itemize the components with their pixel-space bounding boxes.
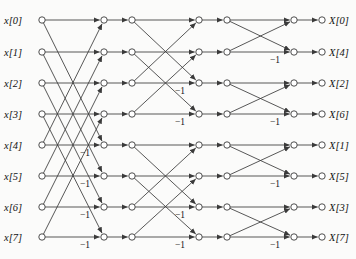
input-node-3 <box>39 111 45 117</box>
multiply-node-3-row5 <box>319 173 325 179</box>
input-label-3: x[3] <box>3 109 22 120</box>
stage3-cross-up-3 <box>227 209 290 237</box>
minus-one-stage3-row7: −1 <box>270 240 280 250</box>
input-node-5 <box>39 173 45 179</box>
fft-butterfly-diagram: x[0]x[1]x[2]x[3]x[4]x[5]x[6]x[7]−1−1−1−1… <box>0 0 356 259</box>
stage1-cross-down-3 <box>42 114 102 233</box>
stage3-node-row6 <box>291 204 297 210</box>
stage1-cross-down-1 <box>42 52 102 172</box>
stage1-cross-down-2 <box>42 83 102 203</box>
minus-one-stage1-row5: −1 <box>80 179 90 189</box>
output-label-0: X[0] <box>328 15 349 26</box>
stage3-node-row0 <box>291 17 297 23</box>
stage3-cross-up-0 <box>227 22 290 52</box>
minus-one-stage2-row7: −1 <box>175 240 185 250</box>
multiply-node-2-row4 <box>224 142 230 148</box>
minus-one-stage3-row3: −1 <box>270 117 280 127</box>
stage1-cross-down-0 <box>42 20 102 141</box>
stage1-node-row2 <box>101 80 107 86</box>
minus-one-stage2-row6: −1 <box>175 210 185 220</box>
stage2-node-row3 <box>196 111 202 117</box>
stage3-cross-down-0 <box>227 20 290 50</box>
stage2-cross-down-3 <box>132 176 196 234</box>
stage1-node-row4 <box>101 142 107 148</box>
stage2-node-row0 <box>196 17 202 23</box>
stage2-cross-up-3 <box>132 179 196 237</box>
multiply-node-1-row6 <box>129 204 135 210</box>
output-label-7: X[7] <box>328 232 349 243</box>
multiply-node-3-row4 <box>319 142 325 148</box>
multiply-node-2-row6 <box>224 204 230 210</box>
stage1-node-row7 <box>101 234 107 240</box>
output-label-2: X[2] <box>328 78 349 89</box>
multiply-node-2-row3 <box>224 111 230 117</box>
input-node-6 <box>39 204 45 210</box>
stage1-cross-up-3 <box>42 118 102 237</box>
multiply-node-1-row1 <box>129 49 135 55</box>
stage3-node-row7 <box>291 234 297 240</box>
stage2-node-row6 <box>196 204 202 210</box>
stage3-cross-down-2 <box>227 145 290 174</box>
multiply-node-1-row2 <box>129 80 135 86</box>
input-label-2: x[2] <box>3 78 22 89</box>
multiply-node-1-row5 <box>129 173 135 179</box>
input-label-7: x[7] <box>3 232 22 243</box>
input-node-7 <box>39 234 45 240</box>
stage3-cross-down-1 <box>227 83 290 112</box>
output-label-1: X[4] <box>328 47 349 58</box>
multiply-node-3-row0 <box>319 17 325 23</box>
stage2-cross-down-2 <box>132 145 196 204</box>
stage2-node-row1 <box>196 49 202 55</box>
input-node-0 <box>39 17 45 23</box>
multiply-node-3-row3 <box>319 111 325 117</box>
minus-one-stage1-row7: −1 <box>80 240 90 250</box>
multiply-node-3-row6 <box>319 204 325 210</box>
input-node-4 <box>39 142 45 148</box>
stage1-node-row0 <box>101 17 107 23</box>
input-label-1: x[1] <box>3 47 22 58</box>
input-label-4: x[4] <box>3 140 22 151</box>
input-label-0: x[0] <box>3 15 22 26</box>
multiply-node-2-row2 <box>224 80 230 86</box>
minus-one-stage2-row2: −1 <box>175 86 185 96</box>
stage3-node-row2 <box>291 80 297 86</box>
stage3-node-row1 <box>291 49 297 55</box>
stage1-cross-up-0 <box>42 24 102 145</box>
stage1-node-row3 <box>101 111 107 117</box>
stage2-cross-up-1 <box>132 55 196 114</box>
stage1-node-row1 <box>101 49 107 55</box>
stage1-node-row6 <box>101 204 107 210</box>
stage2-cross-up-0 <box>132 23 196 83</box>
multiply-node-2-row5 <box>224 173 230 179</box>
stage2-node-row5 <box>196 173 202 179</box>
multiply-node-3-row2 <box>319 80 325 86</box>
multiply-node-1-row7 <box>129 234 135 240</box>
output-label-6: X[3] <box>328 202 349 213</box>
stage3-node-row4 <box>291 142 297 148</box>
output-label-5: X[5] <box>328 171 349 182</box>
input-node-2 <box>39 80 45 86</box>
input-label-5: x[5] <box>3 171 22 182</box>
input-node-1 <box>39 49 45 55</box>
multiply-node-2-row1 <box>224 49 230 55</box>
minus-one-stage3-row1: −1 <box>270 55 280 65</box>
minus-one-stage3-row5: −1 <box>270 179 280 189</box>
stage2-node-row7 <box>196 234 202 240</box>
multiply-node-3-row1 <box>319 49 325 55</box>
stage2-node-row4 <box>196 142 202 148</box>
input-label-6: x[6] <box>3 202 22 213</box>
stage3-cross-down-3 <box>227 207 290 235</box>
stage3-cross-up-2 <box>227 147 290 176</box>
stage1-cross-up-1 <box>42 56 102 176</box>
output-label-3: X[6] <box>328 109 349 120</box>
multiply-node-1-row0 <box>129 17 135 23</box>
stage3-cross-up-1 <box>227 85 290 114</box>
stage3-node-row3 <box>291 111 297 117</box>
stage1-node-row5 <box>101 173 107 179</box>
stage1-cross-up-2 <box>42 87 102 207</box>
stage2-cross-up-2 <box>132 148 196 207</box>
fft-flow-graph-canvas: x[0]x[1]x[2]x[3]x[4]x[5]x[6]x[7]−1−1−1−1… <box>0 0 356 259</box>
multiply-node-1-row3 <box>129 111 135 117</box>
multiply-node-2-row0 <box>224 17 230 23</box>
minus-one-stage1-row4: −1 <box>80 148 90 158</box>
